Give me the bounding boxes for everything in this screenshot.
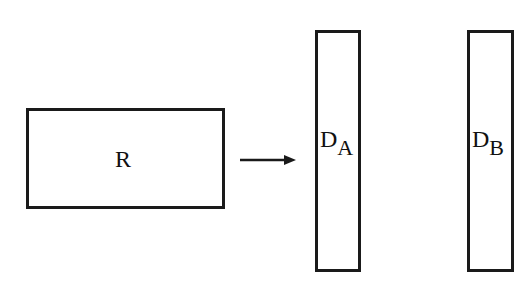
- node-db-label: DB: [472, 127, 504, 151]
- node-da-subscript: A: [337, 135, 353, 160]
- arrow-r-to-da: [0, 0, 531, 288]
- node-da-text: D: [320, 126, 337, 152]
- node-db-text: D: [472, 126, 489, 152]
- node-da-label: DA: [320, 127, 353, 151]
- node-db-subscript: B: [489, 135, 504, 160]
